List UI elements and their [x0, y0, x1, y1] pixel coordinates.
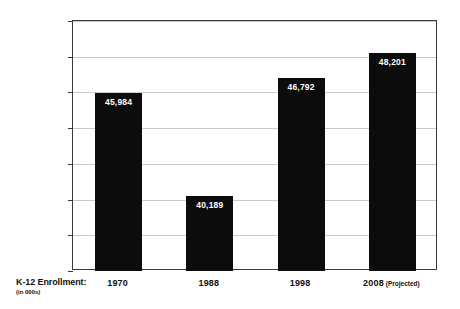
plot-area: 45,98440,18946,79248,201 — [72, 20, 437, 270]
bar: 40,189 — [186, 196, 233, 271]
y-axis-tick — [68, 164, 73, 165]
bar: 46,792 — [278, 78, 325, 271]
y-axis-tick — [68, 57, 73, 58]
y-axis-tick — [68, 200, 73, 201]
y-axis-tick — [68, 92, 73, 93]
bar-value-label: 48,201 — [369, 57, 416, 67]
gridline — [73, 21, 436, 22]
y-axis-tick — [68, 271, 73, 272]
bar: 45,984 — [95, 93, 142, 271]
y-axis-tick — [68, 128, 73, 129]
x-axis-tick-suffix: (Projected) — [384, 280, 420, 287]
y-axis-tick — [68, 21, 73, 22]
series-caption-units: (in 000s) — [16, 289, 106, 296]
bar-value-label: 45,984 — [95, 97, 142, 107]
bar-value-label: 46,792 — [278, 82, 325, 92]
x-axis-tick-label: 2008 (Projected) — [336, 278, 446, 288]
bar-value-label: 40,189 — [186, 200, 233, 210]
series-caption: K-12 Enrollment: (in 000s) — [16, 278, 106, 295]
series-caption-label: K-12 Enrollment: — [16, 278, 106, 288]
bar-chart: 45,98440,18946,79248,201 36,00038,00040,… — [0, 0, 460, 309]
y-axis-tick — [68, 235, 73, 236]
bar: 48,201 — [369, 53, 416, 271]
